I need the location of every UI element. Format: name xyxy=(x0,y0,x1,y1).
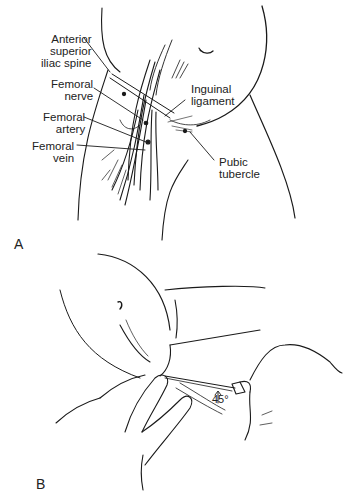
label-line: artery xyxy=(43,123,85,135)
label-line: Anterior xyxy=(41,33,92,45)
medical-figure: Anterior superior iliac spine Femoral ne… xyxy=(0,0,357,498)
label-line: Femoral xyxy=(43,111,85,123)
label-femoral-nerve: Femoral nerve xyxy=(51,78,93,102)
label-femoral-artery: Femoral artery xyxy=(43,111,85,135)
label-inguinal-ligament: Inguinal ligament xyxy=(191,83,234,107)
label-pubic-tubercle: Pubic tubercle xyxy=(219,156,260,180)
label-line: iliac spine xyxy=(41,57,92,69)
label-anterior-superior-iliac-spine: Anterior superior iliac spine xyxy=(41,33,92,69)
label-line: superior xyxy=(41,45,92,57)
angle-label-45-degrees: 45° xyxy=(212,393,229,405)
panel-a-letter: A xyxy=(14,236,23,252)
panel-b-drawing xyxy=(56,254,342,490)
panel-a-drawing xyxy=(77,6,295,240)
label-line: Pubic xyxy=(219,156,260,168)
label-femoral-vein: Femoral vein xyxy=(32,140,74,164)
illustration-drawing xyxy=(0,0,357,498)
label-line: Femoral xyxy=(32,140,74,152)
label-line: Inguinal xyxy=(191,83,234,95)
panel-b-letter: B xyxy=(36,476,45,492)
label-line: Femoral xyxy=(51,78,93,90)
label-line: vein xyxy=(32,152,74,164)
label-line: tubercle xyxy=(219,168,260,180)
label-line: nerve xyxy=(51,90,93,102)
label-line: ligament xyxy=(191,95,234,107)
